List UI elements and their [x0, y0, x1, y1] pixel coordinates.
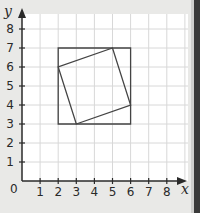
y-tick-label: 8 — [6, 22, 14, 36]
y-tick-label: 5 — [6, 79, 14, 93]
y-axis-label: y — [3, 3, 13, 19]
y-tick-label: 2 — [6, 136, 14, 150]
x-tick-label: 4 — [91, 185, 99, 199]
y-tick-label: 6 — [6, 60, 14, 74]
x-tick-label: 2 — [54, 185, 62, 199]
x-tick-label: 3 — [72, 185, 80, 199]
coordinate-grid-diagram: 1234567812345678 y x 0 — [0, 0, 200, 213]
y-axis-arrow-icon — [18, 8, 26, 18]
x-tick-label: 7 — [145, 185, 153, 199]
y-tick-label: 7 — [6, 41, 14, 55]
x-tick-label: 5 — [109, 185, 117, 199]
x-tick-label: 1 — [36, 185, 44, 199]
y-tick-label: 3 — [6, 117, 14, 131]
x-tick-label: 8 — [163, 185, 171, 199]
y-tick-label: 1 — [6, 155, 14, 169]
x-axis-label: x — [181, 181, 189, 197]
y-tick-label: 4 — [6, 98, 14, 112]
plot-area — [22, 14, 188, 181]
origin-label: 0 — [10, 182, 18, 196]
x-tick-label: 6 — [127, 185, 135, 199]
